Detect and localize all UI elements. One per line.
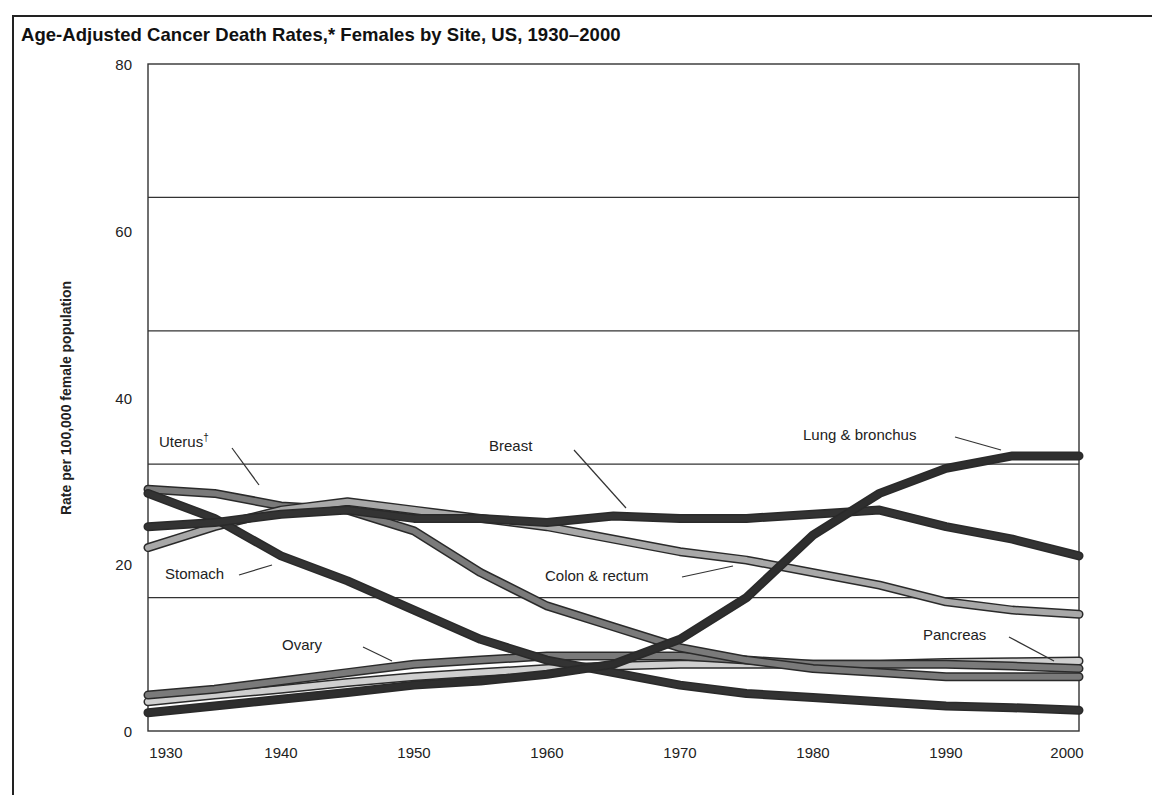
label-ovary: Ovary	[282, 636, 322, 653]
label-uterus: Uterus†	[159, 432, 209, 450]
label-breast: Breast	[489, 437, 532, 454]
label-pancreas: Pancreas	[923, 626, 986, 643]
label-stomach: Stomach	[165, 565, 224, 582]
dagger-mark: †	[203, 432, 209, 443]
label-uterus-text: Uterus	[159, 433, 203, 450]
label-colon: Colon & rectum	[545, 567, 648, 584]
label-lung: Lung & bronchus	[803, 426, 916, 443]
